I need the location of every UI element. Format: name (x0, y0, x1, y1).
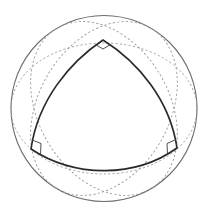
spherical-triangle (31, 40, 177, 171)
great-circles (1, 0, 207, 211)
great-circle-right (1, 0, 207, 211)
spherical-triangle-diagram (0, 0, 207, 211)
great-circle-left (1, 0, 207, 211)
right-angle-marker-top (96, 45, 111, 50)
